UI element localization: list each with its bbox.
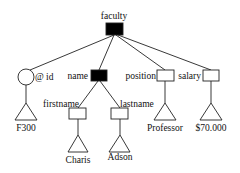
salary-label: salary <box>178 71 201 81</box>
lastname-node <box>111 108 128 119</box>
lastname-label: lastname <box>120 99 154 109</box>
name-node <box>91 70 107 81</box>
id-attribute-node <box>18 69 34 85</box>
faculty-node <box>106 23 123 35</box>
firstname-label: firstname <box>43 99 79 109</box>
id-value-triangle <box>15 103 37 120</box>
salary-value-triangle <box>200 103 222 120</box>
xml-tree-diagram: faculty @ id name position salary firstn… <box>0 0 240 173</box>
edge-faculty-position <box>116 35 165 70</box>
edge-faculty-salary <box>118 35 211 70</box>
firstname-value-triangle <box>68 135 88 152</box>
salary-value-label: $70.000 <box>196 123 227 133</box>
position-value-label: Professor <box>147 123 184 133</box>
lastname-value-label: Adson <box>108 152 133 162</box>
firstname-value-label: Charis <box>66 155 91 165</box>
faculty-label: faculty <box>101 11 128 21</box>
edges <box>26 35 211 135</box>
id-value-label: F300 <box>16 123 36 133</box>
firstname-node <box>69 108 86 119</box>
salary-node <box>203 70 219 81</box>
id-attribute-label: @ id <box>35 72 54 82</box>
position-label: position <box>125 71 156 81</box>
position-value-triangle <box>154 103 176 120</box>
position-node <box>157 70 174 81</box>
edge-name-lastname <box>100 81 120 108</box>
edge-name-firstname <box>78 81 98 108</box>
name-label: name <box>67 71 88 81</box>
lastname-value-triangle <box>109 135 130 152</box>
